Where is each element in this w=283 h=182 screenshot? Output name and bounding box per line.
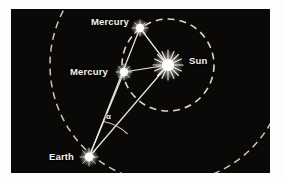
mercury-top-body (131, 19, 149, 37)
sight-lines (89, 28, 168, 157)
label-mercury-top: Mercury (91, 17, 129, 27)
label-earth: Earth (49, 152, 74, 162)
label-sun: Sun (189, 56, 207, 66)
label-angle-alpha: α (106, 113, 111, 121)
label-mercury-mid: Mercury (70, 67, 108, 77)
orbit-diagram-svg (11, 9, 270, 173)
sun-body (153, 50, 183, 80)
earth-body (80, 148, 99, 167)
diagram-page: Mercury Mercury Sun Earth α (0, 0, 283, 182)
sky-panel: Mercury Mercury Sun Earth α (11, 9, 270, 173)
mercury-mid-body (115, 63, 133, 81)
angle-arc (104, 122, 128, 135)
earth-orbit-arc (50, 9, 270, 173)
